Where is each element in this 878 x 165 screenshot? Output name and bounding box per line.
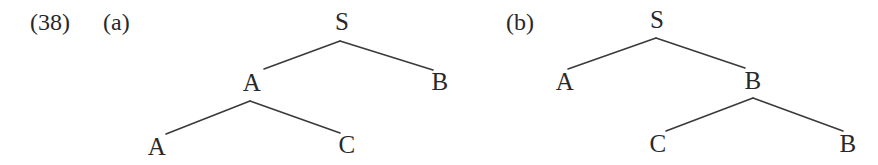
tree-node-a-root-s: S <box>335 9 349 34</box>
subfigure-label-b: (b) <box>506 10 534 34</box>
tree-edge-a-mid-a-to-a-leaf-a <box>166 101 250 134</box>
tree-node-b-leaf-c: C <box>650 131 667 156</box>
tree-edge-a-mid-a-to-a-leaf-c <box>250 101 340 133</box>
tree-edge-b-mid-b-to-b-leaf-b <box>753 98 843 131</box>
tree-node-b-root-s: S <box>650 7 664 32</box>
tree-edge-a-root-s-to-a-right-b <box>340 41 433 70</box>
tree-node-a-leaf-a: A <box>148 134 166 159</box>
tree-b-edges <box>568 38 843 131</box>
tree-node-b-left-a: A <box>556 69 574 94</box>
tree-node-a-mid-a: A <box>243 70 261 95</box>
tree-edge-b-root-s-to-b-left-a <box>568 38 656 69</box>
tree-node-a-right-b: B <box>432 69 449 94</box>
tree-node-b-mid-b: B <box>745 68 762 93</box>
tree-edge-b-root-s-to-b-mid-b <box>656 38 745 68</box>
tree-node-a-leaf-c: C <box>339 132 356 157</box>
tree-a-edges <box>166 41 433 134</box>
subfigure-label-a: (a) <box>103 10 130 34</box>
tree-node-b-leaf-b: B <box>840 131 857 156</box>
example-number: (38) <box>30 10 70 34</box>
syntax-tree-figure: (38) (a) (b) SABAC SABCB <box>0 0 878 165</box>
tree-edge-b-mid-b-to-b-leaf-c <box>666 98 753 131</box>
tree-edge-a-root-s-to-a-mid-a <box>264 41 340 69</box>
